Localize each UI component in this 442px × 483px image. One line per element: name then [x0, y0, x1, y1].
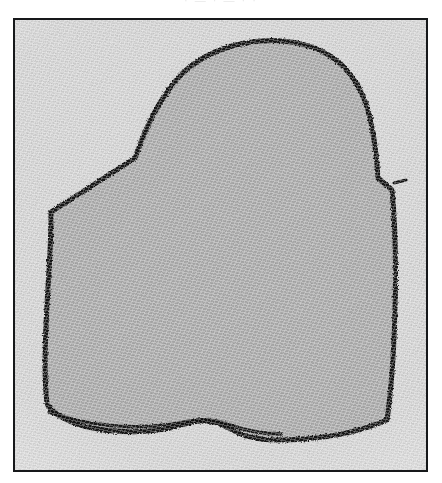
figure-frame	[13, 18, 428, 472]
scanned-figure-page: · — · — · ·	[0, 0, 442, 483]
figure-plate	[15, 20, 426, 470]
paper-grain-noise	[15, 20, 426, 470]
clipped-header-text: · — · — · ·	[0, 0, 442, 6]
hand-drawn-outline-figure	[15, 20, 426, 470]
